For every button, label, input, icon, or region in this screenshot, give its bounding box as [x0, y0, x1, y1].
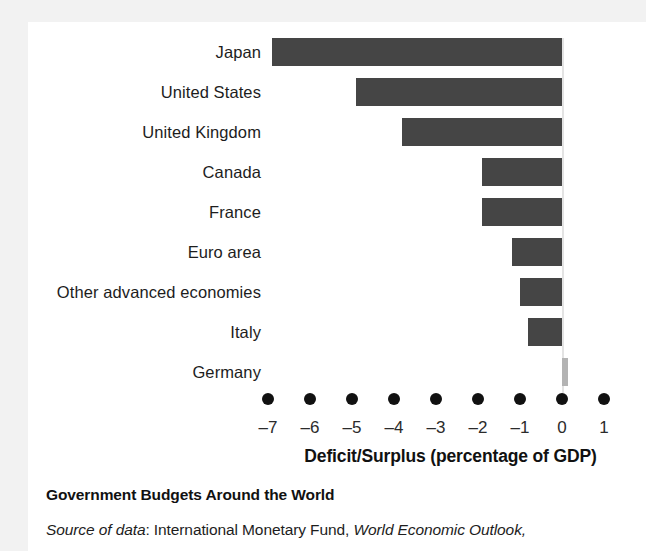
x-axis-title: Deficit/Surplus (percentage of GDP) — [255, 446, 646, 467]
page-canvas: JapanUnited StatesUnited KingdomCanadaFr… — [0, 0, 646, 551]
category-label: United Kingdom — [11, 118, 261, 146]
plot-area — [255, 38, 630, 393]
bar — [520, 278, 562, 306]
axis-dot-marker — [388, 393, 400, 405]
bar — [482, 198, 562, 226]
axis-dot-marker — [346, 393, 358, 405]
axis-dot-marker — [472, 393, 484, 405]
bar — [512, 238, 562, 266]
category-label: United States — [11, 78, 261, 106]
source-publication: World Economic Outlook, — [353, 521, 526, 538]
category-label: Canada — [11, 158, 261, 186]
category-label: Japan — [11, 38, 261, 66]
bar — [402, 118, 562, 146]
zero-axis-line — [562, 38, 564, 393]
bar — [356, 78, 562, 106]
axis-dot-marker — [556, 393, 568, 405]
bar — [562, 358, 568, 386]
bar-chart-figure: JapanUnited StatesUnited KingdomCanadaFr… — [0, 0, 646, 551]
axis-dot-marker — [514, 393, 526, 405]
category-label: Euro area — [11, 238, 261, 266]
source-separator: : — [145, 521, 153, 538]
axis-dot-marker — [598, 393, 610, 405]
category-label: Other advanced economies — [11, 278, 261, 306]
source-label: Source of data — [46, 521, 145, 538]
category-label: Italy — [11, 318, 261, 346]
bar — [528, 318, 562, 346]
axis-dot-marker — [262, 393, 274, 405]
bar — [482, 158, 562, 186]
axis-tick-label: 1 — [574, 418, 634, 438]
axis-dot-marker — [430, 393, 442, 405]
figure-caption-title: Government Budgets Around the World — [46, 486, 334, 504]
source-organization: International Monetary Fund, — [154, 521, 354, 538]
x-axis-dot-markers — [0, 393, 646, 415]
category-label: Germany — [11, 358, 261, 386]
axis-dot-marker — [304, 393, 316, 405]
x-axis-tick-labels: –7–6–5–4–3–2–101 — [0, 418, 646, 444]
bar — [272, 38, 562, 66]
category-label: France — [11, 198, 261, 226]
figure-source-note: Source of data: International Monetary F… — [46, 521, 646, 539]
